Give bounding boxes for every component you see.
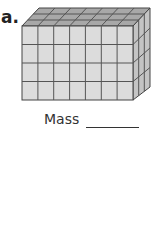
- mass-answer-blank[interactable]: [86, 127, 139, 128]
- mass-label: Mass: [44, 112, 79, 126]
